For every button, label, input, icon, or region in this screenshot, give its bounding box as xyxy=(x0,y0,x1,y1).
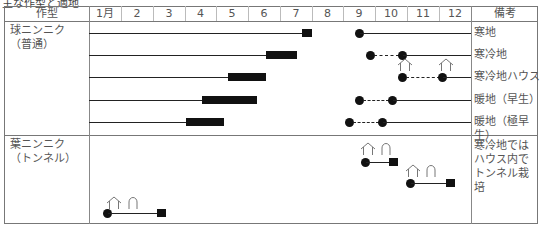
note-row-3: 寒冷地ハウス xyxy=(474,70,540,84)
harvest-box xyxy=(302,29,312,37)
harvest-box xyxy=(389,158,398,166)
header-month-1: 1月 xyxy=(89,7,121,21)
tunnel-icon xyxy=(381,142,391,156)
note-leaf-garlic: 寒冷地ではハウス内でトンネル栽培 xyxy=(474,139,536,195)
header-month-6: 6 xyxy=(248,7,280,21)
growing-line xyxy=(360,33,471,34)
header-month-10: 10 xyxy=(375,7,407,21)
note-row-2: 寒冷地 xyxy=(474,48,507,62)
section-divider xyxy=(4,135,538,136)
header-notes: 備考 xyxy=(471,7,538,21)
header-month-4: 4 xyxy=(185,7,216,21)
header-month-3: 3 xyxy=(153,7,185,21)
growing-line xyxy=(443,77,471,78)
growing-line xyxy=(89,100,203,101)
type-col-divider xyxy=(89,6,90,224)
planting-window-dash xyxy=(406,77,440,78)
note-row-4: 暖地（早生） xyxy=(474,93,540,107)
header-month-11: 11 xyxy=(407,7,439,21)
growing-line xyxy=(89,77,229,78)
harvest-box xyxy=(157,209,166,217)
growing-line xyxy=(89,33,303,34)
tunnel-icon xyxy=(426,164,436,178)
tunnel-icon xyxy=(128,196,138,210)
harvest-box xyxy=(446,179,455,187)
house-icon xyxy=(405,164,421,178)
growing-line xyxy=(403,55,471,56)
growing-line xyxy=(383,122,471,123)
header-month-5: 5 xyxy=(216,7,248,21)
header-month-12: 12 xyxy=(439,7,471,21)
planting-window-dash xyxy=(363,100,389,101)
planting-window-dash xyxy=(374,55,399,56)
section-label-bulb-garlic: 球ニンニク （普通） xyxy=(10,24,65,52)
harvest-box xyxy=(266,51,297,59)
growing-line xyxy=(411,183,448,184)
house-icon xyxy=(438,58,454,72)
harvest-box xyxy=(186,118,224,126)
header-month-7: 7 xyxy=(280,7,312,21)
house-icon xyxy=(106,196,122,210)
planting-window-dash xyxy=(353,122,379,123)
header-divider xyxy=(4,21,538,22)
growing-line xyxy=(89,55,267,56)
header-month-8: 8 xyxy=(312,7,343,21)
growing-line xyxy=(108,213,159,214)
header-type: 作型 xyxy=(4,7,89,21)
growing-line xyxy=(366,162,391,163)
note-row-1: 寒地 xyxy=(474,26,496,40)
header-month-2: 2 xyxy=(121,7,153,21)
section-label-leaf-garlic: 葉ニンニク （トンネル） xyxy=(10,138,76,166)
house-icon xyxy=(397,58,413,72)
growing-line xyxy=(393,100,471,101)
notes-col-divider xyxy=(471,6,472,224)
house-icon xyxy=(360,142,376,156)
header-month-9: 9 xyxy=(343,7,375,21)
cropping-schedule-table xyxy=(4,6,538,224)
harvest-box xyxy=(228,73,266,81)
growing-line xyxy=(89,122,187,123)
harvest-box xyxy=(202,96,257,104)
